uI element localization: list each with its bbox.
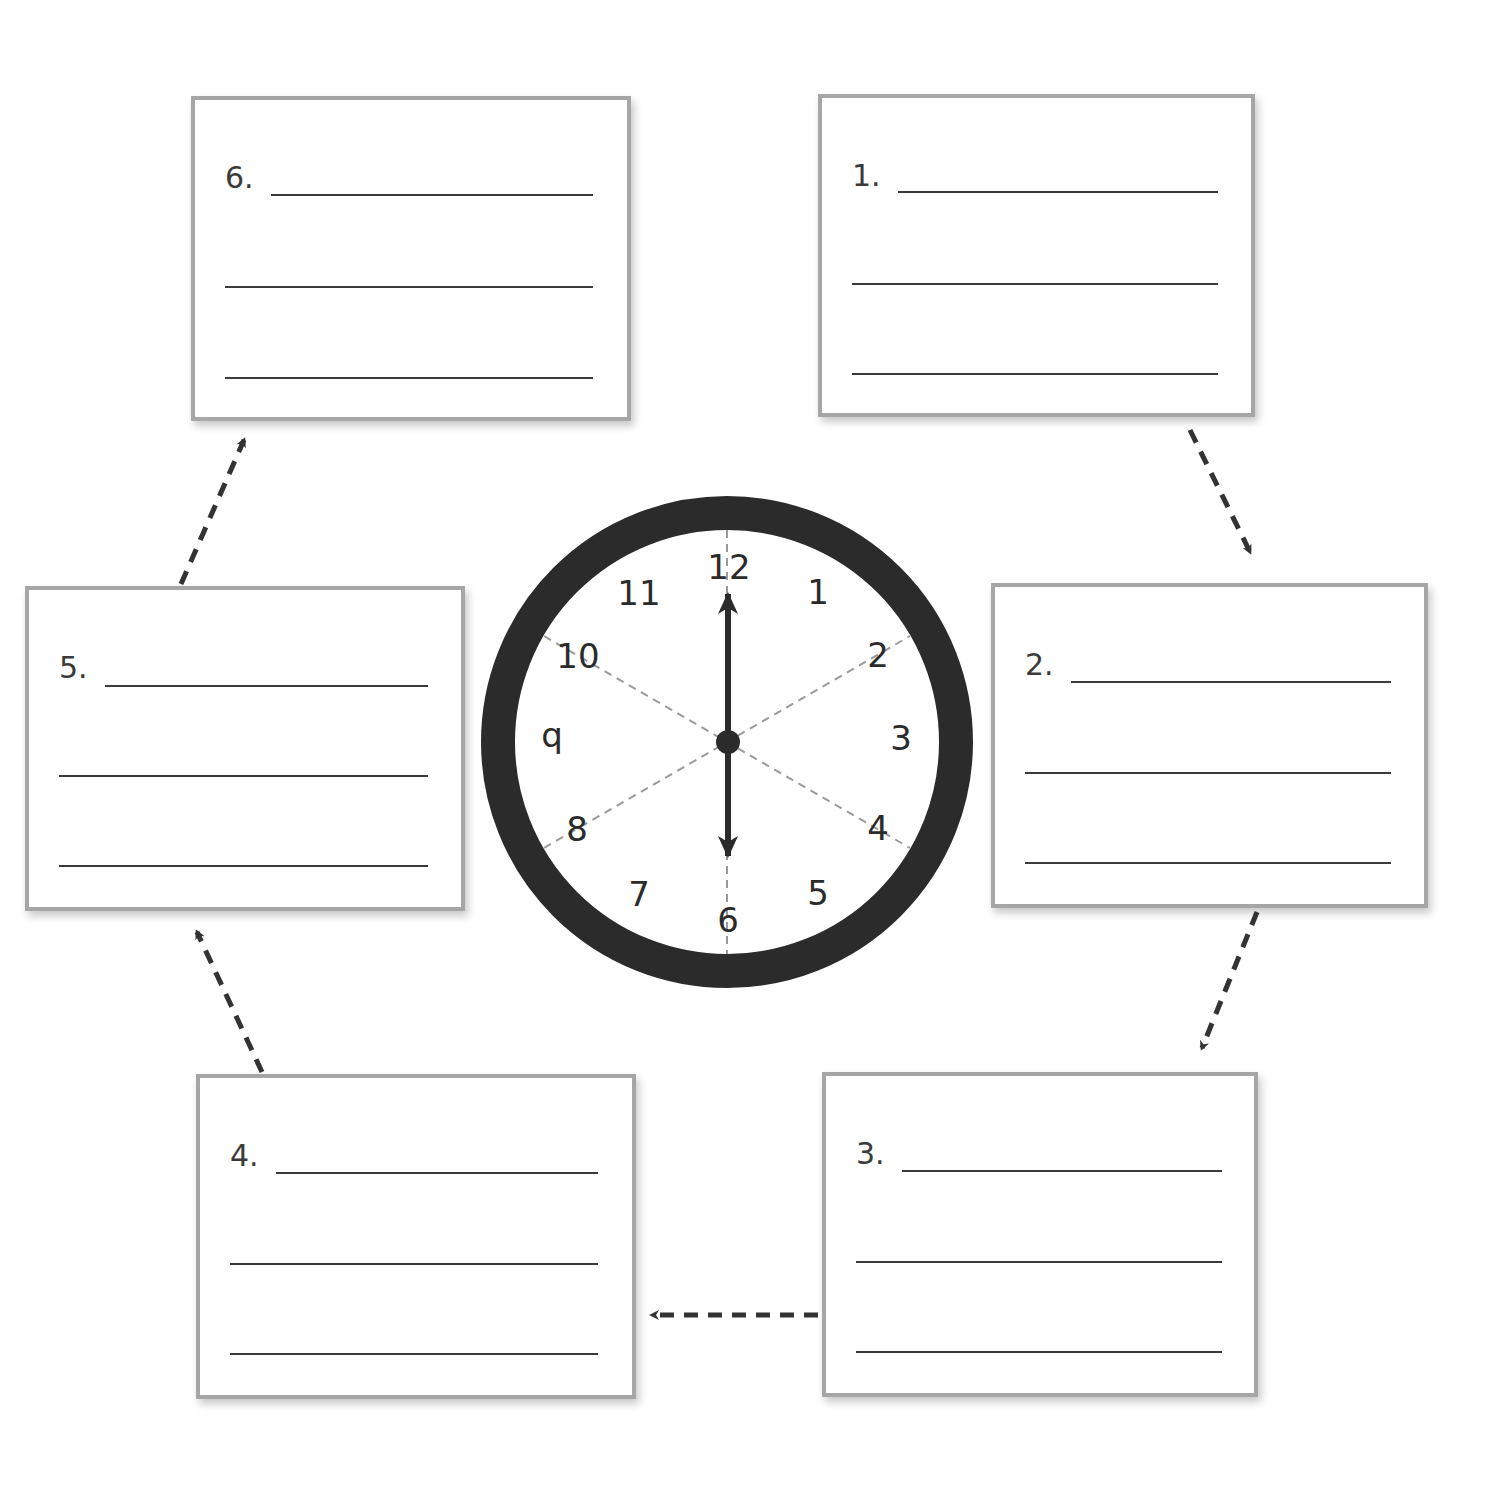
arrow-1-to-2 xyxy=(1190,430,1250,552)
clock-number-11: 11 xyxy=(617,573,660,613)
diagram-overlay: 12 1 2 3 4 5 6 7 8 q 10 11 xyxy=(0,0,1498,1485)
clock-number-9: q xyxy=(541,715,563,755)
clock-number-6: 6 xyxy=(717,900,739,940)
clock-number-1: 1 xyxy=(807,572,829,612)
arrow-2-to-3 xyxy=(1202,912,1257,1048)
clock-center-pin xyxy=(716,730,740,754)
clock-number-8: 8 xyxy=(566,809,588,849)
clock-number-2: 2 xyxy=(867,635,889,675)
clock-number-3: 3 xyxy=(890,718,912,758)
clock-number-4: 4 xyxy=(867,808,889,848)
arrow-4-to-5 xyxy=(197,932,262,1072)
clock-number-12: 12 xyxy=(707,547,750,587)
clock-number-7: 7 xyxy=(628,874,650,914)
clock: 12 1 2 3 4 5 6 7 8 q 10 11 xyxy=(498,513,956,971)
clock-number-5: 5 xyxy=(807,873,829,913)
arrow-5-to-6 xyxy=(181,440,244,584)
clock-number-10: 10 xyxy=(556,636,599,676)
